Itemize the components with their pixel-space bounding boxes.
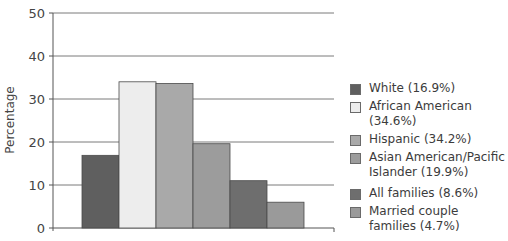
legend-item: All families (8.6%) (350, 186, 508, 201)
legend-swatch (350, 135, 361, 146)
legend-item: African American (34.6%) (350, 99, 508, 129)
legend-label: African American (34.6%) (369, 99, 508, 129)
y-tick-label: 20 (28, 135, 45, 150)
y-tick-label: 40 (28, 49, 45, 64)
legend-swatch (350, 189, 361, 200)
legend-swatch (350, 153, 361, 164)
legend-label: Hispanic (34.2%) (369, 132, 471, 147)
legend-label: All families (8.6%) (369, 186, 478, 201)
bar-hispanic (156, 84, 193, 228)
legend-item: Married couplefamilies (4.7%) (350, 204, 508, 234)
legend-label: White (16.9%) (369, 81, 455, 96)
y-tick-label: 50 (28, 6, 45, 21)
bar-white (82, 155, 119, 228)
bar-african-american (119, 82, 156, 228)
bar-all-families (230, 181, 267, 228)
legend-item: Asian American/PacificIslander (19.9%) (350, 150, 508, 180)
legend-swatch (350, 102, 361, 113)
legend-swatch (350, 207, 361, 218)
y-tick-label: 30 (28, 92, 45, 107)
chart-legend: White (16.9%)African American (34.6%)His… (350, 81, 508, 237)
legend-item: Hispanic (34.2%) (350, 132, 508, 147)
bar-asian-american-pacific-islander (193, 144, 230, 228)
y-tick-label: 10 (28, 178, 45, 193)
legend-label: Asian American/PacificIslander (19.9%) (369, 150, 505, 180)
legend-item: White (16.9%) (350, 81, 508, 96)
legend-label: Married couplefamilies (4.7%) (369, 204, 460, 234)
y-tick-label: 0 (37, 221, 45, 236)
y-axis-label: Percentage (3, 86, 17, 154)
legend-swatch (350, 84, 361, 95)
bar-married-couple-families (267, 202, 304, 228)
